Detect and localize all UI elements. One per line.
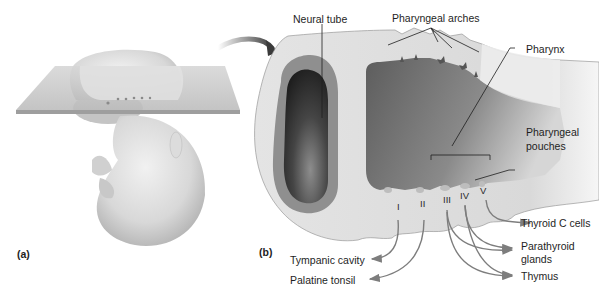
pouch-numeral-1: I (397, 201, 400, 212)
panel-label-b: (b) (259, 246, 272, 258)
label-palatine-tonsil: Palatine tonsil (290, 274, 355, 286)
label-pharyngeal-arches: Pharyngeal arches (392, 12, 480, 24)
label-pharyngeal-pouches-line2: pouches (526, 140, 566, 152)
label-thyroid-c-cells: Thyroid C cells (521, 217, 590, 229)
pouch-numeral-3: III (443, 194, 451, 205)
label-thymus: Thymus (521, 270, 558, 282)
label-parathyroid-line1: Parathyroid (521, 240, 575, 252)
pouch-numeral-4: IV (460, 190, 469, 201)
label-neural-tube: Neural tube (293, 13, 347, 25)
label-pharyngeal-pouches-line1: Pharyngeal (526, 126, 579, 138)
embryo-illustration (16, 50, 240, 246)
transition-arrow-icon (218, 39, 278, 56)
label-pharynx: Pharynx (526, 43, 565, 55)
pouch-numeral-2: II (420, 198, 425, 209)
panel-label-a: (a) (17, 248, 30, 260)
pouch-numeral-5: V (480, 185, 486, 196)
diagram-artwork (0, 0, 599, 297)
label-tympanic-cavity: Tympanic cavity (290, 254, 365, 266)
label-parathyroid-line2: glands (521, 253, 552, 265)
